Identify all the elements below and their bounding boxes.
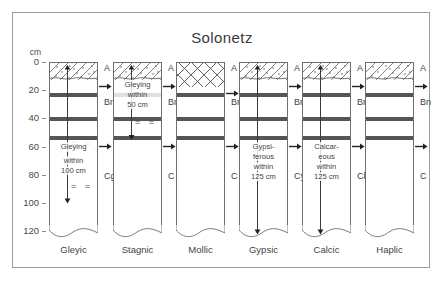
profile-caption: Gleyic (43, 244, 104, 255)
horizon-boundary-arrow-icon (289, 136, 302, 142)
natric-band (366, 136, 414, 140)
horizon-label: C (168, 171, 175, 181)
profile-annotation-line: Gypsi- (240, 142, 287, 151)
horizon-boundary-arrow-icon (163, 76, 176, 82)
natric-band (240, 117, 288, 121)
horizon-boundary-arrow-icon (415, 136, 428, 142)
profile-annotation-line: eous (303, 152, 350, 161)
natric-band (177, 93, 225, 98)
profile-body (365, 62, 414, 231)
topsoil-layer (50, 63, 98, 84)
profile-annotation-line: Calcar- (303, 142, 350, 151)
profile-bottom-wave (49, 225, 98, 239)
profile-annotation-line: 125 cm (303, 172, 350, 181)
profile-caption: Mollic (170, 244, 231, 255)
topsoil-layer (366, 63, 414, 84)
profile-annotation-line: 50 cm (114, 100, 161, 109)
natric-band (50, 117, 98, 121)
natric-band (303, 93, 351, 98)
depth-tick-mark (42, 175, 46, 176)
horizon-boundary-arrow-icon (226, 83, 239, 89)
depth-tick-mark (42, 147, 46, 148)
gleying-symbol-icon: = = (71, 181, 93, 191)
horizon-boundary-arrow-icon (226, 136, 239, 142)
profile-bottom-wave (176, 225, 225, 239)
profile-bottom-wave (239, 225, 288, 239)
horizon-boundary-arrow-icon (352, 136, 365, 142)
horizon-label: A (104, 63, 110, 73)
depth-tick-mark (42, 90, 46, 91)
diagonal-hatch-dots-pattern-icon (240, 63, 288, 84)
crosshatch-pattern-icon (177, 63, 225, 91)
profile-bottom-wave (113, 225, 162, 239)
horizon-label: A (420, 63, 426, 73)
natric-band (303, 136, 351, 140)
topsoil-layer (303, 63, 351, 84)
horizon-label: C (231, 171, 238, 181)
profile-annotation-line: within (114, 90, 161, 99)
gleying-symbol-icon: = = (135, 117, 157, 127)
depth-tick-mark (42, 203, 46, 204)
profile-caption: Gypsic (233, 244, 294, 255)
topsoil-layer (177, 63, 225, 91)
natric-band (303, 117, 351, 121)
horizon-boundary-arrow-icon (415, 76, 428, 82)
profile-annotation-line: ferous (240, 152, 287, 161)
depth-tick-label: 120 (17, 225, 39, 236)
profile-bottom-wave (365, 225, 414, 239)
diagonal-hatch-dots-pattern-icon (303, 63, 351, 84)
depth-tick-label: 0 (17, 56, 39, 67)
depth-tick-label: 100 (17, 197, 39, 208)
horizon-boundary-arrow-icon (352, 76, 365, 82)
horizon-boundary-arrow-icon (99, 76, 112, 82)
depth-tick-mark (42, 118, 46, 119)
natric-band (240, 93, 288, 98)
horizon-label: A (294, 63, 300, 73)
depth-tick-label: 80 (17, 169, 39, 180)
depth-tick-label: 20 (17, 84, 39, 95)
figure-frame: Solonetz cm 020406080100120 ABnCg= == =G… (12, 12, 430, 268)
profile-caption: Stagnic (107, 244, 168, 255)
horizon-boundary-arrow-icon (163, 136, 176, 142)
natric-band (177, 117, 225, 121)
diagonal-hatch-dots-pattern-icon (366, 63, 414, 84)
natric-band (366, 117, 414, 121)
figure-title: Solonetz (13, 29, 431, 46)
natric-band (114, 136, 162, 140)
profile-annotation-line: within (240, 162, 287, 171)
profile-annotation-line: Gleying (114, 80, 161, 89)
profile-bottom-wave (302, 225, 351, 239)
natric-band (50, 93, 98, 98)
horizon-label: C (420, 171, 427, 181)
topsoil-layer (240, 63, 288, 84)
horizon-label: A (357, 63, 363, 73)
horizon-boundary-arrow-icon (99, 136, 112, 142)
horizon-label: Bn (420, 97, 431, 107)
profile-annotation-line: 125 cm (240, 172, 287, 181)
depth-tick-label: 40 (17, 112, 39, 123)
depth-tick-mark (42, 62, 46, 63)
natric-band (366, 93, 414, 98)
natric-band (240, 136, 288, 140)
horizon-label: A (231, 63, 237, 73)
profile-body (176, 62, 225, 231)
profile-annotation-line: within (50, 156, 97, 165)
profile-caption: Calcic (296, 244, 357, 255)
diagonal-hatch-dots-pattern-icon (50, 63, 98, 84)
horizon-label: A (168, 63, 174, 73)
profile-caption: Haplic (359, 244, 420, 255)
depth-tick-label: 60 (17, 141, 39, 152)
profile-annotation-line: Gleying (50, 142, 97, 151)
horizon-boundary-arrow-icon (289, 76, 302, 82)
natric-band (177, 136, 225, 140)
depth-tick-mark (42, 231, 46, 232)
profile-annotation-line: within (303, 162, 350, 171)
profile-annotation-line: 100 cm (50, 166, 97, 175)
